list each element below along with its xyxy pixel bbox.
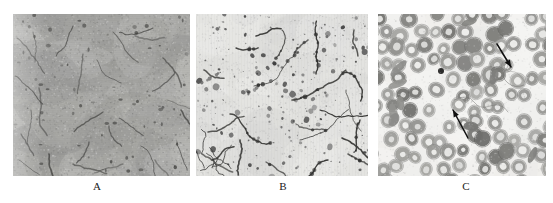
panel-c-label: C [456,180,476,192]
panel-c-image [378,14,546,176]
figure-container: A B C [0,0,553,203]
panel-b-label: B [273,180,293,192]
panel-a-label: A [87,180,107,192]
panel-a-image [13,14,190,176]
panel-b-image [196,14,368,176]
